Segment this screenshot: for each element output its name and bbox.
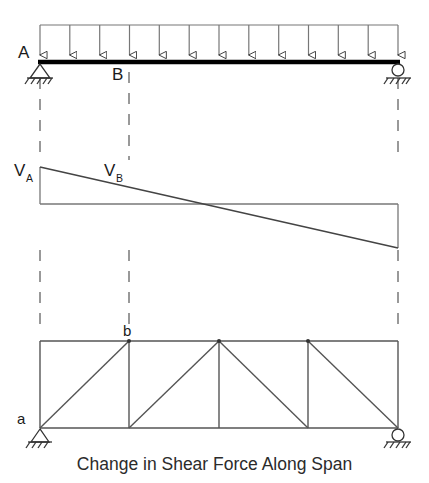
truss-diagonal bbox=[308, 341, 398, 428]
loaded-beam-panel: A B bbox=[18, 25, 411, 84]
label-shear-a-main: V bbox=[14, 161, 26, 180]
truss-joint bbox=[217, 339, 221, 343]
truss-pin-support-left bbox=[26, 429, 52, 448]
figure-caption: Change in Shear Force Along Span bbox=[77, 454, 352, 474]
truss-joint bbox=[306, 339, 310, 343]
structural-figure: A B V A V B bbox=[0, 0, 429, 483]
shear-force-line bbox=[40, 167, 398, 248]
truss-joint bbox=[127, 339, 131, 343]
label-shear-b-main: V bbox=[104, 161, 116, 180]
label-point-b: B bbox=[112, 65, 123, 84]
label-support-a: A bbox=[18, 43, 30, 62]
distributed-load-arrows bbox=[40, 25, 398, 55]
label-shear-a-subscript: A bbox=[26, 172, 33, 184]
vertical-guides bbox=[40, 72, 398, 332]
shear-force-panel: V A V B bbox=[14, 161, 398, 248]
truss-diagonal bbox=[40, 341, 129, 428]
diagram-canvas: A B V A V B bbox=[0, 0, 429, 483]
beam-roller-support-right bbox=[384, 64, 411, 84]
label-node-b: b bbox=[123, 322, 131, 339]
label-shear-b: V B bbox=[104, 161, 123, 184]
truss-roller-support-right bbox=[384, 429, 411, 448]
label-shear-b-subscript: B bbox=[116, 172, 123, 184]
truss-diagonal bbox=[129, 341, 219, 428]
truss-panel: a b bbox=[17, 322, 411, 448]
truss-diagonal bbox=[219, 341, 308, 428]
label-node-a: a bbox=[17, 410, 26, 427]
label-shear-a: V A bbox=[14, 161, 33, 184]
beam-pin-support-left bbox=[25, 64, 53, 84]
